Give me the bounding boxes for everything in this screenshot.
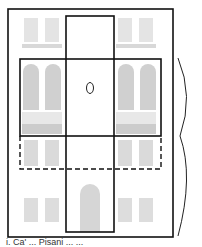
figure-caption: i. Ca' ... Pisani ... ...	[6, 237, 83, 247]
curly-brace-icon	[178, 58, 187, 236]
facade-photo	[22, 18, 156, 232]
oval-marker-icon	[87, 83, 94, 94]
